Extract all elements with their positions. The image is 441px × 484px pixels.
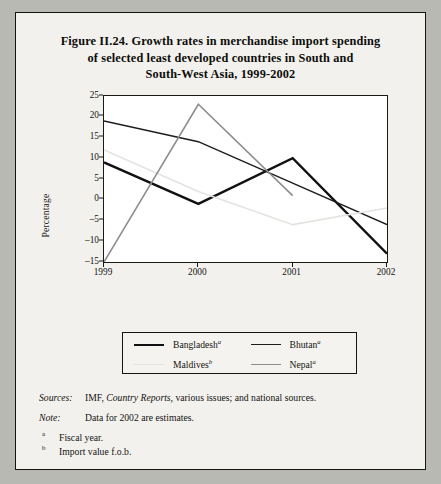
sources-italic: Country Reports,: [106, 392, 173, 403]
footnote-b-mark: b: [42, 442, 46, 455]
y-tick-label: 10: [63, 152, 99, 162]
y-tick-label: 5: [63, 173, 99, 183]
sources-note: Sources:IMF, Country Reports, various is…: [39, 391, 407, 404]
y-tick-mark: [99, 136, 103, 137]
legend-swatch-nepal: [251, 364, 281, 365]
legend-swatch-bhutan: [251, 344, 281, 345]
legend-swatch-bangladesh: [134, 344, 164, 346]
note-text: Data for 2002 are estimates.: [85, 412, 194, 423]
x-tick-label: 1999: [80, 267, 126, 277]
y-tick-label: –10: [63, 235, 99, 245]
plot-area: [103, 95, 388, 263]
legend-label-bangladesh: Bangladesha: [173, 338, 221, 350]
y-tick-mark: [99, 177, 103, 178]
note-label: Note:: [39, 411, 85, 424]
x-tick-label: 2000: [174, 267, 220, 277]
y-tick-mark: [99, 115, 103, 116]
legend-label-nepal: Nepala: [290, 358, 316, 370]
figure-title-line-1: Figure II.24. Growth rates in merchandis…: [38, 33, 403, 50]
y-axis-ticks: 2520151050–5–10–15: [59, 95, 99, 263]
y-axis-label: Percentage: [40, 170, 51, 260]
legend-item-maldives: Maldivesb: [123, 358, 240, 370]
chart: Percentage 2520151050–5–10–15 1999200020…: [16, 92, 425, 297]
series-lines: [104, 96, 387, 262]
x-tick-mark: [386, 263, 387, 267]
y-tick-mark: [99, 260, 103, 261]
legend-item-bangladesh: Bangladesha: [123, 338, 240, 350]
x-tick-mark: [197, 263, 198, 267]
footnote-a-text: Fiscal year.: [59, 432, 103, 443]
legend-item-bhutan: Bhutana: [240, 338, 357, 350]
legend-label-bhutan: Bhutana: [290, 338, 321, 350]
legend-label-maldives: Maldivesb: [173, 358, 212, 370]
y-tick-mark: [99, 219, 103, 220]
y-tick-mark: [99, 239, 103, 240]
chart-legend: Bangladesha Bhutana Maldivesb Nepala: [122, 332, 357, 374]
y-tick-label: 0: [63, 193, 99, 203]
figure-title: Figure II.24. Growth rates in merchandis…: [38, 33, 403, 83]
y-tick-label: 20: [63, 110, 99, 120]
footnote-b: b Import value f.o.b.: [39, 445, 407, 458]
figure-notes: Sources:IMF, Country Reports, various is…: [39, 391, 407, 459]
series-line-nepal: [104, 104, 293, 262]
footnote-a: a Fiscal year.: [39, 431, 407, 444]
y-tick-label: 15: [63, 131, 99, 141]
y-tick-mark: [99, 156, 103, 157]
x-tick-label: 2002: [363, 267, 409, 277]
series-line-maldives: [104, 149, 387, 224]
x-axis-ticks: 1999200020012002: [103, 267, 388, 283]
y-tick-mark: [99, 198, 103, 199]
x-tick-label: 2001: [269, 267, 315, 277]
footnote-a-mark: a: [42, 428, 45, 441]
y-tick-label: 25: [63, 90, 99, 100]
y-tick-label: –15: [63, 256, 99, 266]
note-line: Note:Data for 2002 are estimates.: [39, 411, 407, 424]
sources-pre: IMF,: [85, 392, 104, 403]
sources-post: various issues; and national sources.: [175, 392, 316, 403]
sources-label: Sources:: [39, 391, 85, 404]
x-tick-mark: [292, 263, 293, 267]
legend-row-1: Bangladesha Bhutana: [123, 336, 356, 353]
footnote-b-text: Import value f.o.b.: [59, 446, 131, 457]
y-tick-label: –5: [63, 214, 99, 224]
x-tick-mark: [103, 263, 104, 267]
legend-swatch-maldives: [134, 364, 164, 365]
legend-row-2: Maldivesb Nepala: [123, 356, 356, 373]
figure-title-line-2: of selected least developed countries in…: [38, 50, 403, 67]
figure-title-line-3: South-West Asia, 1999-2002: [38, 66, 403, 83]
figure-panel: Figure II.24. Growth rates in merchandis…: [15, 12, 426, 470]
legend-item-nepal: Nepala: [240, 358, 357, 370]
y-tick-mark: [99, 94, 103, 95]
